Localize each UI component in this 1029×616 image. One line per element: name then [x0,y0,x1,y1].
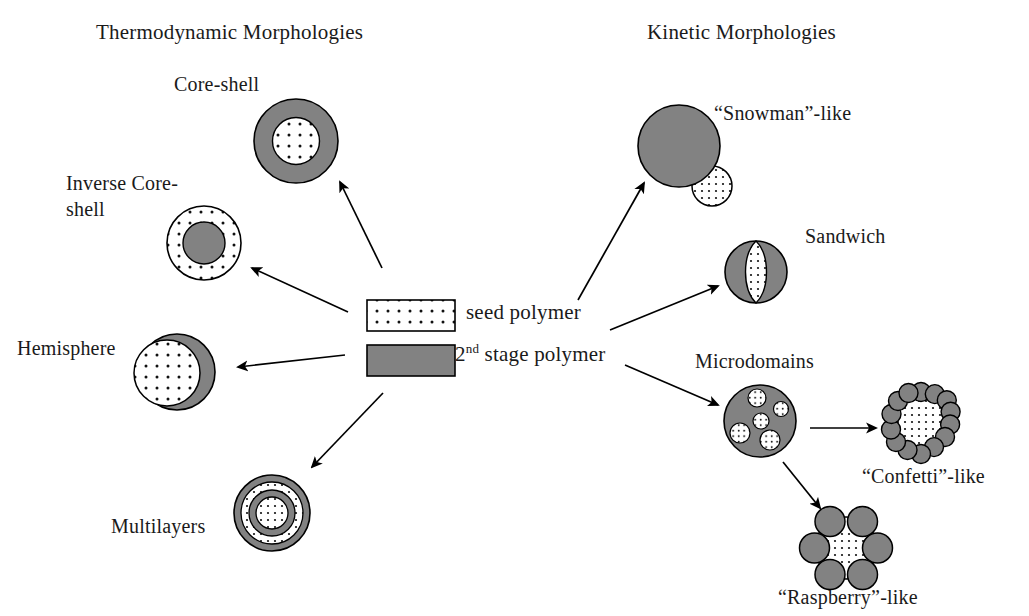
arrow-to-hemisphere [238,355,345,367]
legend-second-stage-swatch [367,345,455,376]
polymer-morphology-diagram: Thermodynamic Morphologies Kinetic Morph… [0,0,1029,616]
legend-second-stage-superscript: nd [466,341,479,356]
label-confetti: “Confetti”-like [862,465,985,488]
label-snowman: “Snowman”-like [714,102,851,125]
legend-seed-swatch [367,300,455,331]
particle-core-shell [254,99,338,183]
label-multilayers: Multilayers [111,515,205,538]
particle-inverse-core-shell [167,206,241,280]
label-raspberry: “Raspberry”-like [778,586,918,609]
label-core-shell: Core-shell [174,73,259,96]
label-inverse-core-shell-line1: Inverse Core- [66,172,178,195]
particle-hemisphere [134,334,215,410]
arrow-to-multilayers [312,393,383,467]
arrow-to-core-shell [340,182,382,268]
label-hemisphere: Hemisphere [17,337,116,360]
arrow-to-sandwich [610,286,718,330]
particle-raspberry [800,507,893,590]
particle-multilayers [234,475,310,551]
label-microdomains: Microdomains [695,350,814,373]
legend-second-stage-suffix: stage polymer [479,342,605,366]
legend-label-seed-polymer: seed polymer [466,300,581,324]
section-title-thermodynamic: Thermodynamic Morphologies [96,20,363,44]
particle-microdomains [724,385,796,457]
label-inverse-core-shell-line2: shell [66,198,105,221]
label-sandwich: Sandwich [805,225,885,248]
particle-confetti [882,383,961,464]
section-title-kinetic: Kinetic Morphologies [647,20,836,44]
legend-label-second-stage-polymer: 2nd stage polymer [455,342,606,366]
legend-second-stage-prefix: 2 [455,342,466,366]
arrow-to-inverse-core-shell [252,268,348,312]
arrow-to-snowman [578,183,644,300]
particle-sandwich [725,241,787,303]
arrow-to-raspberry [783,462,820,508]
